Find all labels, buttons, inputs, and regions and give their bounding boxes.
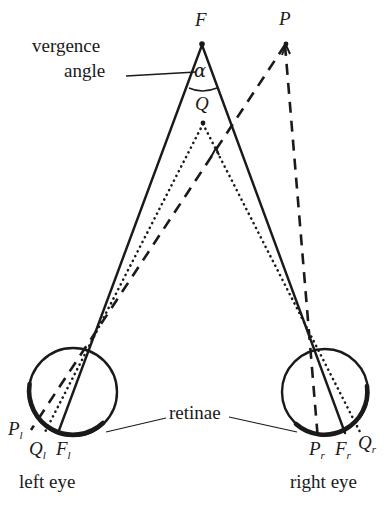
point-label-Fl-letter: F [56, 438, 68, 459]
point-label-Pl: Pl [8, 419, 23, 438]
retinae-leader-left [106, 418, 166, 432]
point-label-Fr-sub: r [347, 449, 351, 461]
peripheral-ray-left [31, 45, 285, 430]
point-Q-dot [201, 121, 206, 126]
left-eye-label: left eye [19, 472, 75, 491]
vergence-angle-symbol: α [194, 62, 206, 80]
near-point-ray-group [45, 124, 360, 432]
fixation-ray-left [58, 45, 202, 433]
point-label-Fr-letter: F [335, 438, 347, 459]
point-F-dot [199, 41, 205, 47]
point-label-Fr: Fr [335, 439, 351, 458]
near-point-ray-left [45, 124, 203, 432]
vergence-note-line1: vergence [32, 36, 100, 55]
retinae-label: retinae [169, 403, 221, 422]
retinae-leader-right [229, 417, 297, 432]
peripheral-ray-right [285, 45, 318, 440]
point-label-F: F [195, 10, 207, 29]
point-label-Pl-letter: P [8, 418, 20, 439]
point-label-Ql-sub: l [43, 449, 46, 461]
point-label-Fl: Fl [56, 439, 71, 458]
point-label-Fl-sub: l [68, 449, 71, 461]
ray-crossing-tick [211, 148, 219, 157]
point-label-Pr-letter: P [309, 438, 321, 459]
point-label-Pr-sub: r [321, 449, 325, 461]
fixation-ray-right [202, 45, 345, 433]
point-label-Pr: Pr [309, 439, 325, 458]
point-label-Ql-letter: Q [29, 438, 43, 459]
vergence-leader-line [126, 72, 196, 76]
vergence-angle-arc [189, 88, 217, 91]
point-label-Pl-sub: l [20, 429, 23, 441]
point-label-Qr-sub: r [372, 443, 376, 455]
point-label-Ql: Ql [29, 439, 46, 458]
vergence-note-line2: angle [64, 61, 105, 80]
point-label-Qr-letter: Q [358, 432, 372, 453]
right-eye-label: right eye [290, 472, 357, 491]
point-label-Qr: Qr [358, 433, 376, 452]
point-label-P: P [279, 9, 291, 28]
point-label-Q: Q [195, 94, 209, 113]
